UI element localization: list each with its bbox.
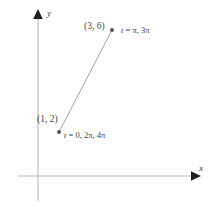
upper-point-marker	[110, 28, 114, 32]
x-axis-label: x	[199, 164, 203, 173]
lower-point-parameter-label: t = 0, 2π, 4π	[64, 131, 105, 140]
parametric-segment	[59, 30, 112, 132]
upper-parameter-variable: t	[121, 25, 123, 35]
y-axis-arrowhead	[33, 9, 43, 19]
upper-point-parameter-label: t = π, 3π	[121, 26, 150, 35]
plot-canvas	[0, 0, 213, 207]
parametric-plot-figure: y x (3, 6) t = π, 3π (1, 2) t = 0, 2π, 4…	[0, 0, 213, 207]
upper-parameter-values: = π, 3π	[126, 25, 150, 35]
lower-point-marker	[57, 130, 61, 134]
lower-point-coordinate-label: (1, 2)	[37, 115, 58, 125]
y-axis-label: y	[47, 9, 51, 18]
upper-point-coordinate-label: (3, 6)	[84, 22, 105, 32]
lower-parameter-values: = 0, 2π, 4π	[69, 130, 106, 140]
lower-parameter-variable: t	[64, 130, 66, 140]
